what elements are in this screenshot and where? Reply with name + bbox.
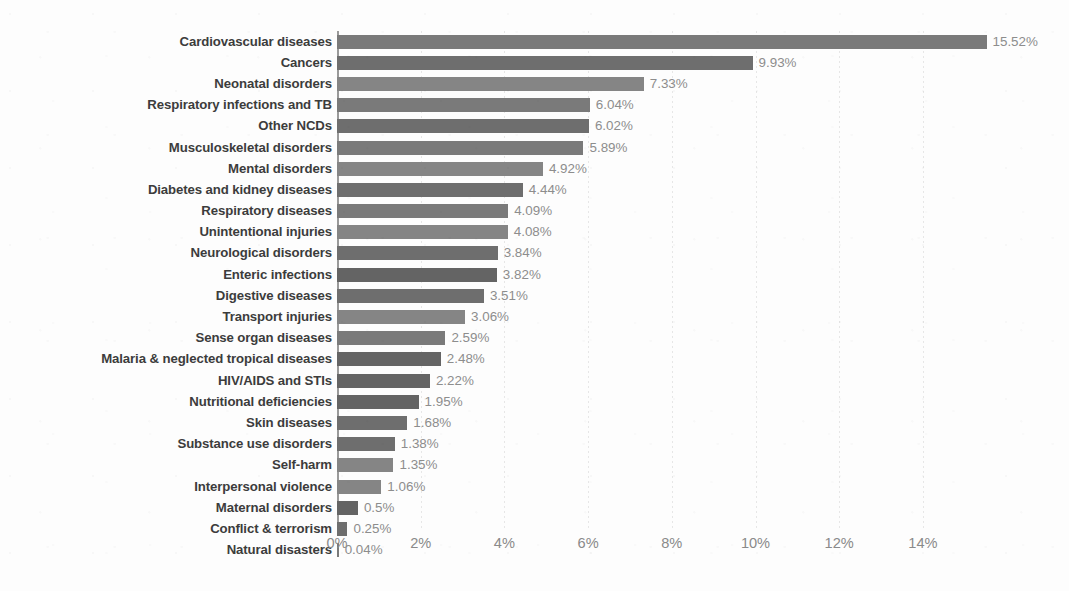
value-label: 15.52% [993,35,1038,49]
bar [337,98,590,112]
category-label: Digestive diseases [12,289,337,303]
bar [337,204,508,218]
x-tick-label: 0% [326,534,347,552]
bar [337,268,497,282]
bar [337,183,523,197]
bar-row: Nutritional deficiencies1.95% [0,391,1069,412]
category-label: Substance use disorders [12,437,337,451]
x-tick-label: 10% [741,534,770,552]
category-label: Musculoskeletal disorders [12,141,337,155]
bar [337,501,358,515]
value-label: 2.48% [447,352,485,366]
bar-row: Self-harm1.35% [0,455,1069,476]
value-label: 2.59% [451,331,489,345]
bar-track: 4.44% [337,179,567,200]
bar [337,458,393,472]
value-label: 4.09% [514,204,552,218]
bar-row: Neonatal disorders7.33% [0,73,1069,94]
value-label: 5.89% [589,141,627,155]
bar-track: 6.04% [337,95,634,116]
bar [337,77,644,91]
category-label: Interpersonal violence [12,480,337,494]
value-label: 4.44% [529,183,567,197]
bar-row: Digestive diseases3.51% [0,285,1069,306]
bar-row: Malaria & neglected tropical diseases2.4… [0,349,1069,370]
bar-track: 1.68% [337,412,451,433]
category-label: Self-harm [12,458,337,472]
bar-track: 2.59% [337,328,489,349]
bar [337,162,543,176]
bar-row: Neurological disorders3.84% [0,243,1069,264]
category-label: Sense organ diseases [12,331,337,345]
bar-track: 5.89% [337,137,627,158]
x-tick-label: 6% [578,534,599,552]
bar [337,246,498,260]
x-axis-tick-labels: 0%2%4%6%8%10%12%14% [0,534,1069,558]
category-label: Cardiovascular diseases [12,35,337,49]
value-label: 7.33% [650,77,688,91]
value-label: 0.5% [364,501,395,515]
bar-row: Maternal disorders0.5% [0,497,1069,518]
bar-chart: Cardiovascular diseases15.52%Cancers9.93… [0,0,1069,591]
category-label: Maternal disorders [12,501,337,515]
category-label: Neonatal disorders [12,77,337,91]
value-label: 9.93% [759,56,797,70]
value-label: 1.68% [413,416,451,430]
value-label: 3.51% [490,289,528,303]
bar [337,35,987,49]
bar [337,480,381,494]
bar-row: Unintentional injuries4.08% [0,222,1069,243]
bar [337,289,484,303]
bar-track: 15.52% [337,31,1038,52]
bar-rows: Cardiovascular diseases15.52%Cancers9.93… [0,31,1069,561]
category-label: HIV/AIDS and STIs [12,374,337,388]
category-label: Other NCDs [12,119,337,133]
value-label: 1.95% [425,395,463,409]
bar-row: Interpersonal violence1.06% [0,476,1069,497]
category-label: Skin diseases [12,416,337,430]
value-label: 3.82% [503,268,541,282]
bar-track: 1.95% [337,391,463,412]
bar-row: Sense organ diseases2.59% [0,328,1069,349]
x-tick-label: 14% [908,534,937,552]
value-label: 4.92% [549,162,587,176]
bar-track: 2.48% [337,349,485,370]
bar [337,331,445,345]
bar-row: Respiratory diseases4.09% [0,201,1069,222]
bar-row: Transport injuries3.06% [0,306,1069,327]
value-label: 4.08% [514,225,552,239]
bar-row: Skin diseases1.68% [0,412,1069,433]
category-label: Enteric infections [12,268,337,282]
value-label: 3.06% [471,310,509,324]
x-tick-label: 2% [410,534,431,552]
value-label: 6.04% [596,98,634,112]
value-label: 2.22% [436,374,474,388]
bar-track: 9.93% [337,52,797,73]
value-label: 6.02% [595,119,633,133]
bar-track: 7.33% [337,73,688,94]
bar-row: Other NCDs6.02% [0,116,1069,137]
bar-row: Respiratory infections and TB6.04% [0,95,1069,116]
bar-track: 4.08% [337,222,552,243]
value-label: 3.84% [504,246,542,260]
bar-track: 3.84% [337,243,542,264]
bar-track: 3.51% [337,285,528,306]
bar-row: Musculoskeletal disorders5.89% [0,137,1069,158]
bar-track: 6.02% [337,116,633,137]
bar [337,119,589,133]
bar-row: Cancers9.93% [0,52,1069,73]
bar-row: Diabetes and kidney diseases4.44% [0,179,1069,200]
bar [337,437,395,451]
bar-track: 2.22% [337,370,474,391]
bar-track: 1.06% [337,476,425,497]
bar [337,141,583,155]
value-label: 1.35% [399,458,437,472]
bar [337,225,508,239]
x-tick-label: 8% [661,534,682,552]
bar-row: Substance use disorders1.38% [0,434,1069,455]
bar [337,310,465,324]
bar-track: 1.35% [337,455,437,476]
value-label: 1.38% [401,437,439,451]
bar-row: HIV/AIDS and STIs2.22% [0,370,1069,391]
category-label: Transport injuries [12,310,337,324]
